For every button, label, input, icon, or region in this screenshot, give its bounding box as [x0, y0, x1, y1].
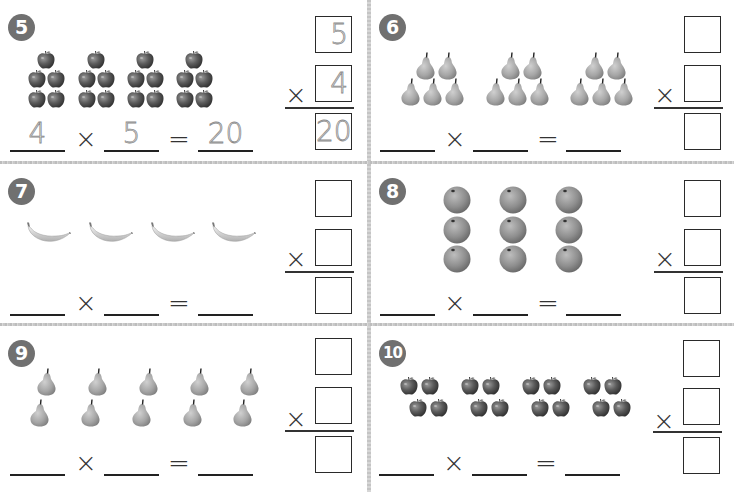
- apple-icon: [96, 69, 116, 89]
- factor1-blank[interactable]: [379, 474, 434, 476]
- factor2-blank[interactable]: [104, 314, 159, 316]
- equals-sign: =: [168, 450, 190, 476]
- vertical-result-box[interactable]: 20: [315, 113, 352, 150]
- apple-icon: [86, 50, 106, 70]
- problem-number-badge: 5: [8, 14, 35, 41]
- vertical-result-box[interactable]: [684, 113, 721, 150]
- apple-icon: [521, 376, 541, 396]
- pear-icon: [484, 78, 506, 106]
- vertical-sum-line: [653, 431, 722, 433]
- pear-icon: [605, 52, 627, 80]
- problem-6: 6 × = ×: [371, 0, 734, 162]
- vertical-bottom-box[interactable]: [684, 65, 721, 102]
- pear-icon: [79, 399, 101, 427]
- vertical-top-box[interactable]: [315, 338, 352, 375]
- vertical-bottom-box[interactable]: 4: [315, 65, 352, 102]
- vertical-bottom-box[interactable]: [315, 387, 352, 424]
- vertical-result-box[interactable]: [315, 436, 352, 473]
- vertical-times-sign: ×: [285, 406, 307, 432]
- apple-icon: [603, 376, 623, 396]
- pear-icon: [130, 399, 152, 427]
- equals-sign: =: [535, 450, 557, 476]
- apple-icon: [542, 376, 562, 396]
- apple-icon: [194, 69, 214, 89]
- banana-icon: [24, 222, 72, 244]
- product-blank[interactable]: [198, 314, 253, 316]
- factor2-blank[interactable]: [472, 474, 527, 476]
- apple-icon: [46, 89, 66, 109]
- apple-icon: [469, 398, 489, 418]
- product-blank[interactable]: [566, 150, 621, 152]
- vertical-top-box[interactable]: [683, 340, 720, 377]
- banana-icon: [209, 222, 257, 244]
- pear-icon: [436, 52, 458, 80]
- problem-number-badge: 6: [379, 14, 406, 41]
- vertical-result-box[interactable]: [684, 277, 721, 314]
- vertical-bottom-box[interactable]: [315, 229, 352, 266]
- vertical-sum-line: [285, 107, 354, 109]
- product-blank[interactable]: [565, 474, 620, 476]
- product-blank[interactable]: [566, 314, 621, 316]
- times-sign: ×: [75, 450, 97, 476]
- pear-icon: [583, 52, 605, 80]
- factor2-blank[interactable]: [473, 314, 528, 316]
- factor1-blank[interactable]: [10, 150, 65, 152]
- vertical-sum-line: [285, 430, 354, 432]
- times-sign: ×: [444, 126, 466, 152]
- problem-9: 9 × = ×: [0, 326, 367, 488]
- vertical-sum-line: [654, 271, 723, 273]
- apple-icon: [145, 89, 165, 109]
- problem-10: 10 × = ×: [371, 326, 734, 488]
- factor1-blank[interactable]: [380, 150, 435, 152]
- vertical-times-sign: ×: [654, 246, 676, 272]
- vertical-top-box[interactable]: [684, 180, 721, 217]
- vertical-top-box[interactable]: 5: [315, 16, 352, 53]
- pear-icon: [28, 399, 50, 427]
- apple-icon: [481, 376, 501, 396]
- apple-icon: [551, 398, 571, 418]
- factor2-blank[interactable]: [473, 150, 528, 152]
- apple-icon: [96, 89, 116, 109]
- pear-icon: [528, 78, 550, 106]
- factor1-blank[interactable]: [10, 314, 65, 316]
- product-blank[interactable]: [198, 150, 253, 152]
- times-sign: ×: [75, 290, 97, 316]
- pear-icon: [443, 78, 465, 106]
- apple-icon: [420, 376, 440, 396]
- pear-icon: [231, 399, 253, 427]
- vertical-times-sign: ×: [654, 82, 676, 108]
- apple-icon: [184, 50, 204, 70]
- vertical-bottom-box[interactable]: [683, 388, 720, 425]
- problem-number-badge: 7: [8, 178, 35, 205]
- factor2-blank[interactable]: [104, 150, 159, 152]
- vertical-bottom-box[interactable]: [684, 229, 721, 266]
- orange-icon: [443, 245, 471, 273]
- apple-icon: [126, 69, 146, 89]
- apple-icon: [77, 69, 97, 89]
- orange-icon: [555, 216, 583, 244]
- times-sign: ×: [444, 290, 466, 316]
- factor2-blank[interactable]: [104, 474, 159, 476]
- apple-icon: [460, 376, 480, 396]
- pear-icon: [506, 78, 528, 106]
- orange-icon: [499, 245, 527, 273]
- orange-icon: [443, 216, 471, 244]
- apple-icon: [490, 398, 510, 418]
- apple-icon: [135, 50, 155, 70]
- vertical-result-box[interactable]: [315, 277, 352, 314]
- vertical-top-box[interactable]: [315, 180, 352, 217]
- pear-icon: [86, 368, 108, 396]
- problem-number-badge: 10: [379, 340, 406, 367]
- product-blank[interactable]: [198, 474, 253, 476]
- vertical-result-box[interactable]: [683, 437, 720, 474]
- vertical-top-box[interactable]: [684, 16, 721, 53]
- vertical-times-sign: ×: [285, 246, 307, 272]
- factor1-blank[interactable]: [380, 314, 435, 316]
- pear-icon: [181, 399, 203, 427]
- pear-icon: [35, 368, 57, 396]
- factor1-blank[interactable]: [10, 474, 65, 476]
- vertical-times-sign: ×: [285, 82, 307, 108]
- times-sign: ×: [75, 126, 97, 152]
- apple-icon: [399, 376, 419, 396]
- banana-icon: [148, 222, 196, 244]
